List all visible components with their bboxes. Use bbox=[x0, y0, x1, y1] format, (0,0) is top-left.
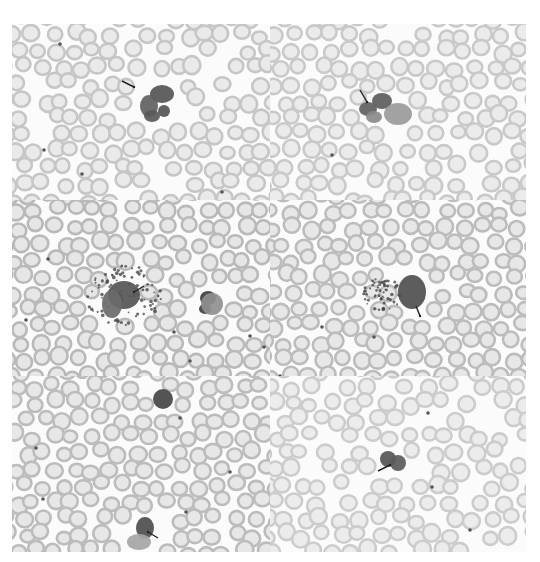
debris-dot bbox=[172, 330, 176, 334]
debris-dot bbox=[188, 359, 192, 363]
micrograph-panel-middle-left bbox=[12, 200, 270, 376]
stained-cell bbox=[390, 455, 406, 471]
debris-dot bbox=[262, 345, 266, 349]
stained-cell bbox=[201, 293, 223, 315]
micrograph-panel-bottom-right bbox=[270, 376, 526, 552]
debris-dot bbox=[426, 411, 430, 415]
debris-dot bbox=[46, 257, 50, 261]
debris-dot bbox=[430, 485, 434, 489]
micrograph-panel-top-left bbox=[12, 24, 270, 200]
stained-cell bbox=[366, 111, 382, 123]
debris-dot bbox=[330, 153, 334, 157]
stained-cell bbox=[127, 534, 151, 550]
pointer-arrow-icon bbox=[416, 306, 421, 317]
stained-cell bbox=[102, 290, 122, 318]
debris-dot bbox=[372, 335, 376, 339]
debris-dot bbox=[248, 334, 252, 338]
micrograph-panel-bottom-left bbox=[12, 376, 270, 552]
micrograph-panel-top-right bbox=[270, 24, 526, 200]
debris-dot bbox=[80, 172, 84, 176]
micrograph-panel-middle-right bbox=[270, 200, 526, 376]
debris-dot bbox=[468, 528, 472, 532]
debris-dot bbox=[178, 416, 182, 420]
debris-dot bbox=[228, 470, 232, 474]
stained-cell bbox=[158, 105, 170, 117]
debris-dot bbox=[220, 190, 224, 194]
debris-dot bbox=[42, 148, 46, 152]
stained-cell bbox=[398, 275, 426, 309]
red-blood-cells bbox=[12, 24, 270, 200]
debris-dot bbox=[41, 497, 45, 501]
debris-dot bbox=[34, 446, 38, 450]
debris-dot bbox=[184, 510, 188, 514]
debris-dot bbox=[24, 318, 28, 322]
red-blood-cells bbox=[270, 200, 526, 376]
stained-cell bbox=[153, 389, 173, 409]
stained-cell bbox=[144, 110, 160, 122]
micrograph-figure bbox=[12, 24, 526, 552]
debris-dot bbox=[320, 325, 324, 329]
stained-cell bbox=[384, 103, 412, 125]
debris-dot bbox=[58, 42, 62, 46]
